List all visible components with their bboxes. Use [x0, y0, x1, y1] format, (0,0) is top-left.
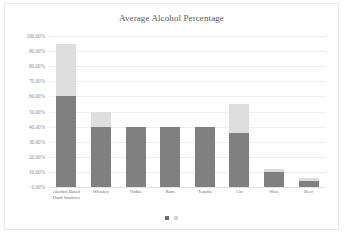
pagination-dot[interactable]	[174, 216, 178, 220]
bar-segment-max	[91, 112, 111, 127]
y-axis-tick-label: 40.00%	[29, 124, 45, 130]
y-axis-tick-label: 90.00%	[29, 48, 45, 54]
x-axis-tick-line: Wine	[257, 189, 292, 195]
bar-group[interactable]	[160, 36, 180, 187]
bar-group[interactable]	[229, 36, 249, 187]
bar-group[interactable]	[264, 36, 284, 187]
x-axis-tick-label: Beer	[291, 189, 326, 195]
gridline	[49, 187, 326, 188]
bar-segment-min	[229, 133, 249, 187]
bar-segment-min	[264, 172, 284, 187]
y-axis-tick-label: 80.00%	[29, 63, 45, 69]
y-axis-tick-label: 50.00%	[29, 109, 45, 115]
chart-title: Average Alcohol Percentage	[5, 13, 338, 23]
bar-segment-min	[126, 127, 146, 187]
bar-segment-max	[56, 44, 76, 97]
bar-segment-min	[195, 127, 215, 187]
x-axis-tick-label: Tequila	[188, 189, 223, 195]
bar-group[interactable]	[126, 36, 146, 187]
y-axis-tick-label: 60.00%	[29, 93, 45, 99]
x-axis-tick-line: Vodka	[118, 189, 153, 195]
bar-group[interactable]	[195, 36, 215, 187]
x-axis-tick-label: Rum	[153, 189, 188, 195]
bar-segment-max	[229, 104, 249, 133]
x-axis-tick-line: Hand Sanitizer	[49, 195, 84, 201]
bar-group[interactable]	[91, 36, 111, 187]
bar-segment-min	[91, 127, 111, 187]
x-axis-tick-label: Alcohol BasedHand Sanitizer	[49, 189, 84, 201]
pagination-dots[interactable]	[5, 216, 338, 220]
chart-card: Average Alcohol Percentage 100.00%90.00%…	[4, 3, 339, 230]
y-axis-tick-label: 10.00%	[29, 169, 45, 175]
x-axis-tick-line: Rum	[153, 189, 188, 195]
bar-segment-min	[299, 181, 319, 187]
x-axis-tick-line: Beer	[291, 189, 326, 195]
bar-segment-min	[160, 127, 180, 187]
y-axis: 100.00%90.00%80.00%70.00%60.00%50.00%40.…	[7, 36, 47, 187]
x-axis-tick-line: Gin	[222, 189, 257, 195]
x-axis-tick-label: Whiskey	[84, 189, 119, 195]
y-axis-tick-label: 30.00%	[29, 139, 45, 145]
x-axis-tick-line: Tequila	[188, 189, 223, 195]
x-axis-tick-label: Gin	[222, 189, 257, 195]
pagination-dot[interactable]	[165, 216, 169, 220]
bar-group[interactable]	[299, 36, 319, 187]
y-axis-tick-label: 0.00%	[32, 184, 45, 190]
bar-group[interactable]	[56, 36, 76, 187]
x-axis-tick-line: Whiskey	[84, 189, 119, 195]
x-axis-tick-label: Vodka	[118, 189, 153, 195]
x-axis: Alcohol BasedHand SanitizerWhiskeyVodkaR…	[49, 189, 326, 211]
x-axis-tick-label: Wine	[257, 189, 292, 195]
bar-segment-min	[56, 96, 76, 187]
y-axis-tick-label: 20.00%	[29, 154, 45, 160]
plot-area	[49, 36, 326, 187]
y-axis-tick-label: 100.00%	[26, 33, 45, 39]
y-axis-tick-label: 70.00%	[29, 78, 45, 84]
bars-layer	[49, 36, 326, 187]
